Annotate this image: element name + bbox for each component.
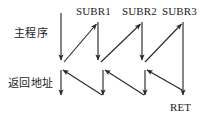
arrow-call-subr3	[145, 24, 182, 62]
label-subr1: SUBR1	[76, 6, 111, 17]
arrow-return-2	[105, 70, 144, 95]
arrow-call-subr1	[64, 24, 97, 62]
subroutine-flow-diagram: SUBR1 SUBR2 SUBR3 主程序 返回地址 RET	[0, 0, 209, 122]
label-subr3: SUBR3	[162, 6, 197, 17]
label-subr2: SUBR2	[122, 6, 157, 17]
arrow-return-3	[147, 70, 182, 90]
arrow-return-1	[63, 70, 102, 95]
label-return-address: 返回地址	[8, 78, 53, 89]
label-ret: RET	[170, 102, 191, 113]
label-main-program: 主程序	[14, 28, 48, 39]
arrow-call-subr2	[101, 24, 141, 62]
